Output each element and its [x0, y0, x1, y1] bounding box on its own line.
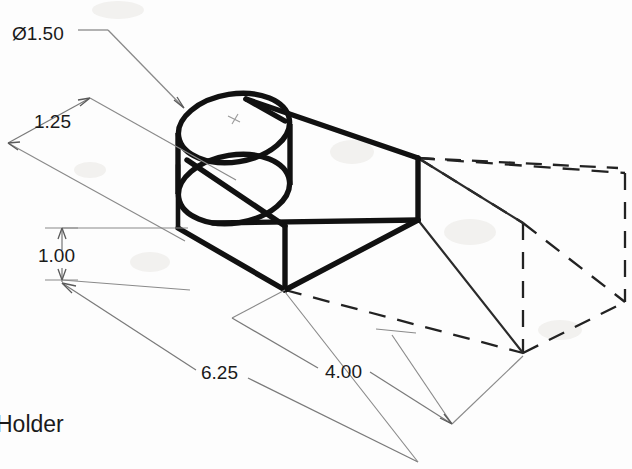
dimension-label-hole-diameter: Ø1.50	[12, 23, 64, 44]
dimension-label-depth: 1.25	[34, 111, 71, 132]
center-mark-icon	[228, 114, 240, 124]
dimension-label-overall-length: 6.25	[201, 362, 238, 383]
arrowhead-icon	[440, 414, 452, 424]
dimension-block-length: 4.00	[232, 290, 523, 424]
dimension-label-block-length: 4.00	[325, 361, 362, 382]
holder-block	[178, 99, 418, 290]
projection-edges	[418, 158, 523, 353]
drawing-title-label: Holder	[0, 411, 64, 437]
scan-artifacts	[74, 1, 582, 340]
dimension-label-height: 1.00	[38, 245, 75, 266]
isometric-drawing-sheet: Ø1.50 1.25 1.00	[0, 0, 632, 469]
technical-drawing-canvas: Ø1.50 1.25 1.00	[0, 0, 632, 469]
dimension-hole-diameter: Ø1.50	[12, 23, 184, 108]
arrowhead-icon	[78, 98, 90, 106]
dimension-overall-length: 6.25	[62, 283, 418, 462]
